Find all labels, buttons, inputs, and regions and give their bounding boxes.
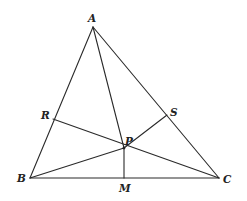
label-s: S [170, 106, 178, 118]
triangle-diagram: A B C R S P M [0, 0, 247, 201]
point-p-dot [123, 147, 126, 150]
segment-bp [30, 148, 124, 178]
label-m: M [118, 182, 131, 194]
segments-group [30, 27, 219, 178]
side-ab [30, 27, 93, 178]
label-r: R [40, 109, 50, 121]
label-a: A [87, 12, 96, 24]
label-c: C [223, 173, 232, 185]
label-b: B [16, 172, 26, 184]
label-p: P [124, 135, 134, 147]
points-group [123, 147, 126, 150]
